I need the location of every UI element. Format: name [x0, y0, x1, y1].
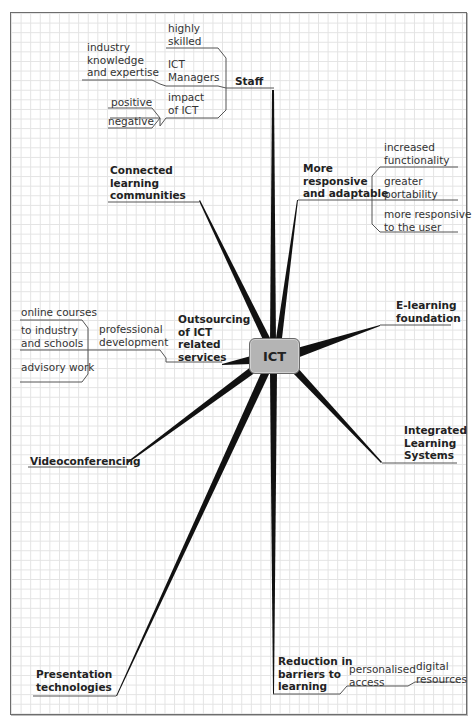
node-reduction-barriers[interactable]: Reduction in barriers to learning: [278, 655, 352, 693]
node-integrated-learning[interactable]: Integrated Learning Systems: [404, 424, 467, 462]
node-presentation-technologies[interactable]: Presentation technologies: [36, 668, 112, 693]
node-positive[interactable]: positive: [111, 96, 152, 109]
industry-knowledge-underline: [82, 80, 166, 86]
node-to-industry[interactable]: to industry and schools: [21, 324, 83, 349]
node-online-courses[interactable]: online courses: [21, 306, 97, 319]
ict-managers-underline: [166, 86, 226, 88]
node-staff[interactable]: Staff: [235, 75, 263, 88]
node-personalised-access[interactable]: personalised access: [349, 663, 416, 688]
node-ict-managers[interactable]: ICT Managers: [168, 58, 220, 83]
node-advisory-work[interactable]: advisory work: [21, 361, 94, 374]
node-digital-resources[interactable]: digital resources: [416, 660, 467, 685]
spoke-videoconferencing: [127, 366, 256, 463]
node-videoconferencing[interactable]: Videoconferencing: [30, 455, 141, 468]
node-negative[interactable]: negative: [108, 115, 154, 128]
center-node-label: ICT: [263, 349, 286, 364]
node-outsourcing[interactable]: Outsourcing of ICT related services: [178, 313, 250, 363]
node-more-responsive-user[interactable]: more responsive to the user: [384, 208, 471, 233]
node-greater-portability[interactable]: greater portability: [384, 175, 438, 200]
node-connected-learning[interactable]: Connected learning communities: [110, 164, 186, 202]
node-highly-skilled[interactable]: highly skilled: [168, 22, 201, 47]
node-industry-knowledge[interactable]: industry knowledge and expertise: [87, 41, 159, 79]
spoke-elearning: [297, 325, 380, 358]
center-node-ict[interactable]: ICT: [249, 338, 300, 374]
spoke-more-responsive: [275, 200, 298, 347]
spoke-integrated: [290, 366, 382, 463]
node-professional-development[interactable]: professional development: [99, 323, 168, 348]
node-increased-functionality[interactable]: increased functionality: [384, 141, 450, 166]
node-elearning-foundation[interactable]: E-learning foundation: [396, 299, 461, 324]
node-impact-of-ict[interactable]: impact of ICT: [168, 91, 204, 116]
spoke-reduction: [270, 372, 277, 694]
spoke-staff: [270, 90, 276, 345]
node-more-responsive[interactable]: More responsive and adaptable: [303, 162, 388, 200]
spoke-presentation: [116, 371, 270, 696]
